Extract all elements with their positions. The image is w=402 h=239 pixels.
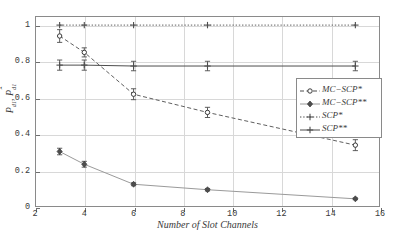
y-axis-tick-label: 0 bbox=[25, 202, 30, 212]
legend-item[interactable]: MC−SCP** bbox=[299, 95, 378, 108]
y-axis-tick-label: 0.8 bbox=[15, 56, 30, 66]
legend-marker-plus-icon bbox=[299, 109, 321, 121]
legend-marker-plus-icon bbox=[299, 122, 321, 134]
series-scp bbox=[56, 22, 358, 28]
x-axis-label: Number of Slot Channels bbox=[35, 219, 380, 230]
y-label-sub2: d1 bbox=[10, 84, 17, 90]
legend-item-label: MC−SCP** bbox=[321, 97, 367, 107]
x-axis-tick-label: 10 bbox=[227, 209, 237, 219]
chart-figure: Number of Slot Channels Pd1, ̂Pd1 MC−SCP… bbox=[0, 0, 402, 239]
x-axis-tick-label: 8 bbox=[180, 209, 185, 219]
legend-item-label: SCP* bbox=[321, 110, 343, 120]
y-label-p1: P bbox=[4, 107, 15, 113]
x-axis-tick-label: 12 bbox=[276, 209, 286, 219]
legend-marker-diamond-icon bbox=[299, 96, 321, 108]
legend-item[interactable]: SCP* bbox=[299, 108, 378, 121]
legend-item[interactable]: SCP** bbox=[299, 121, 378, 134]
legend-marker-circle-open-icon bbox=[299, 83, 321, 95]
legend-item-label: SCP** bbox=[321, 123, 347, 133]
legend-item[interactable]: MC−SCP* bbox=[299, 82, 378, 95]
x-axis-tick-label: 6 bbox=[131, 209, 136, 219]
y-axis-tick-label: 0.6 bbox=[15, 93, 30, 103]
x-axis-tick-label: 14 bbox=[326, 209, 336, 219]
legend: MC−SCP*MC−SCP**SCP*SCP** bbox=[296, 78, 382, 138]
legend-item-label: MC−SCP* bbox=[321, 84, 362, 94]
x-axis-tick-label: 16 bbox=[375, 209, 385, 219]
x-axis-tick-label: 4 bbox=[82, 209, 87, 219]
y-label-hat-accent: ̂ bbox=[1, 85, 11, 96]
y-axis-tick-label: 1 bbox=[25, 20, 30, 30]
series-scp bbox=[56, 60, 358, 71]
series-mc-scp bbox=[57, 148, 358, 202]
y-axis-tick-label: 0.4 bbox=[15, 129, 30, 139]
x-axis-tick-label: 2 bbox=[32, 209, 37, 219]
y-axis-tick-label: 0.2 bbox=[15, 166, 30, 176]
